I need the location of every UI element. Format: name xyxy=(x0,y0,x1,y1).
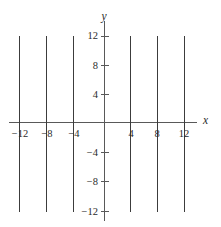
x-tick-label-4: 4 xyxy=(128,129,133,140)
x-tick-label--8: −8 xyxy=(41,129,52,140)
asymptote-lines xyxy=(20,36,185,212)
x-tick-label--12: −12 xyxy=(12,129,28,140)
y-tick-label--12: −12 xyxy=(82,207,98,218)
graph-figure: −12 −8 −4 4 8 12 12 8 4 −4 −8 −12 y x xyxy=(0,0,221,227)
y-tick-label-12: 12 xyxy=(88,31,99,42)
y-tick-label--8: −8 xyxy=(87,177,98,188)
y-axis-label: y xyxy=(101,11,106,23)
x-tick-label-12: 12 xyxy=(179,129,190,140)
x-tick-label--4: −4 xyxy=(68,129,79,140)
coordinate-plane xyxy=(0,0,221,227)
y-tick-label-8: 8 xyxy=(93,61,98,72)
x-tick-label-8: 8 xyxy=(154,129,159,140)
y-tick-label--4: −4 xyxy=(87,148,98,159)
x-axis-label: x xyxy=(203,115,208,127)
y-tick-label-4: 4 xyxy=(93,90,98,101)
